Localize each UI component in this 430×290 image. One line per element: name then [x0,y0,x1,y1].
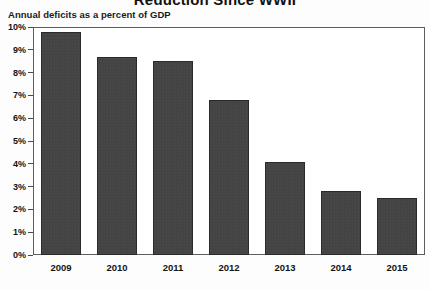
x-axis: 2009201020112012201320142015 [33,256,425,278]
y-axis-tick-label: 8% [13,68,28,78]
y-axis: 0%1%2%3%4%5%6%7%8%9%10% [0,27,33,255]
y-axis-tick-label: 9% [13,45,28,55]
x-axis-tick-label: 2009 [33,262,89,273]
y-axis-tick-label: 1% [13,227,28,237]
bar-slot [97,27,136,255]
x-axis-tick-label: 2011 [145,262,201,273]
x-axis-tick-label: 2015 [369,262,425,273]
y-axis-tick-label: 4% [13,159,28,169]
chart-title: Reduction Since WWII [0,0,430,8]
bar-slot [321,27,360,255]
chart-page: Reduction Since WWII Annual deficits as … [0,0,430,290]
bar-2011 [153,61,192,255]
y-axis-tick-label: 10% [8,22,28,32]
bar-slot [41,27,80,255]
bar-slot [377,27,416,255]
bar-slot [265,27,304,255]
bar-slot [209,27,248,255]
bar-2012 [209,100,248,255]
bar-2010 [97,57,136,255]
bar-2013 [265,162,304,255]
y-axis-tick-label: 3% [13,182,28,192]
bar-2015 [377,198,416,255]
bar-2014 [321,191,360,255]
x-axis-tick-label: 2013 [257,262,313,273]
x-axis-tick-label: 2012 [201,262,257,273]
chart-subtitle: Annual deficits as a percent of GDP [8,9,171,20]
y-axis-tick-label: 2% [13,204,28,214]
x-axis-tick-label: 2010 [89,262,145,273]
y-axis-tick-label: 7% [13,90,28,100]
y-axis-tick-label: 5% [13,136,28,146]
y-axis-tick-label: 6% [13,113,28,123]
x-axis-tick-label: 2014 [313,262,369,273]
bar-slot [153,27,192,255]
bar-series [33,27,425,255]
bar-2009 [41,32,80,255]
y-axis-tick-label: 0% [13,250,28,260]
